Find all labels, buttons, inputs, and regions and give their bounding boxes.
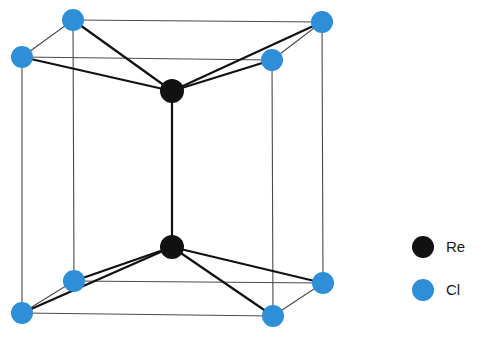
atom-cl	[62, 9, 84, 31]
crystal-structure-svg: ReCl	[0, 0, 484, 343]
atom-cl	[311, 11, 333, 33]
crystal-structure-figure: ReCl	[0, 0, 484, 343]
atom-re	[160, 235, 184, 259]
atom-cl	[11, 302, 33, 324]
atom-re	[160, 79, 184, 103]
atom-cl	[262, 305, 284, 327]
atom-cl	[312, 272, 334, 294]
legend-label-re: Re	[446, 238, 465, 255]
atom-cl	[11, 46, 33, 68]
legend-label-cl: Cl	[446, 281, 460, 298]
atom-cl	[261, 49, 283, 71]
atom-cl	[63, 270, 85, 292]
legend-swatch-cl	[412, 279, 434, 301]
legend-swatch-re	[412, 236, 434, 258]
